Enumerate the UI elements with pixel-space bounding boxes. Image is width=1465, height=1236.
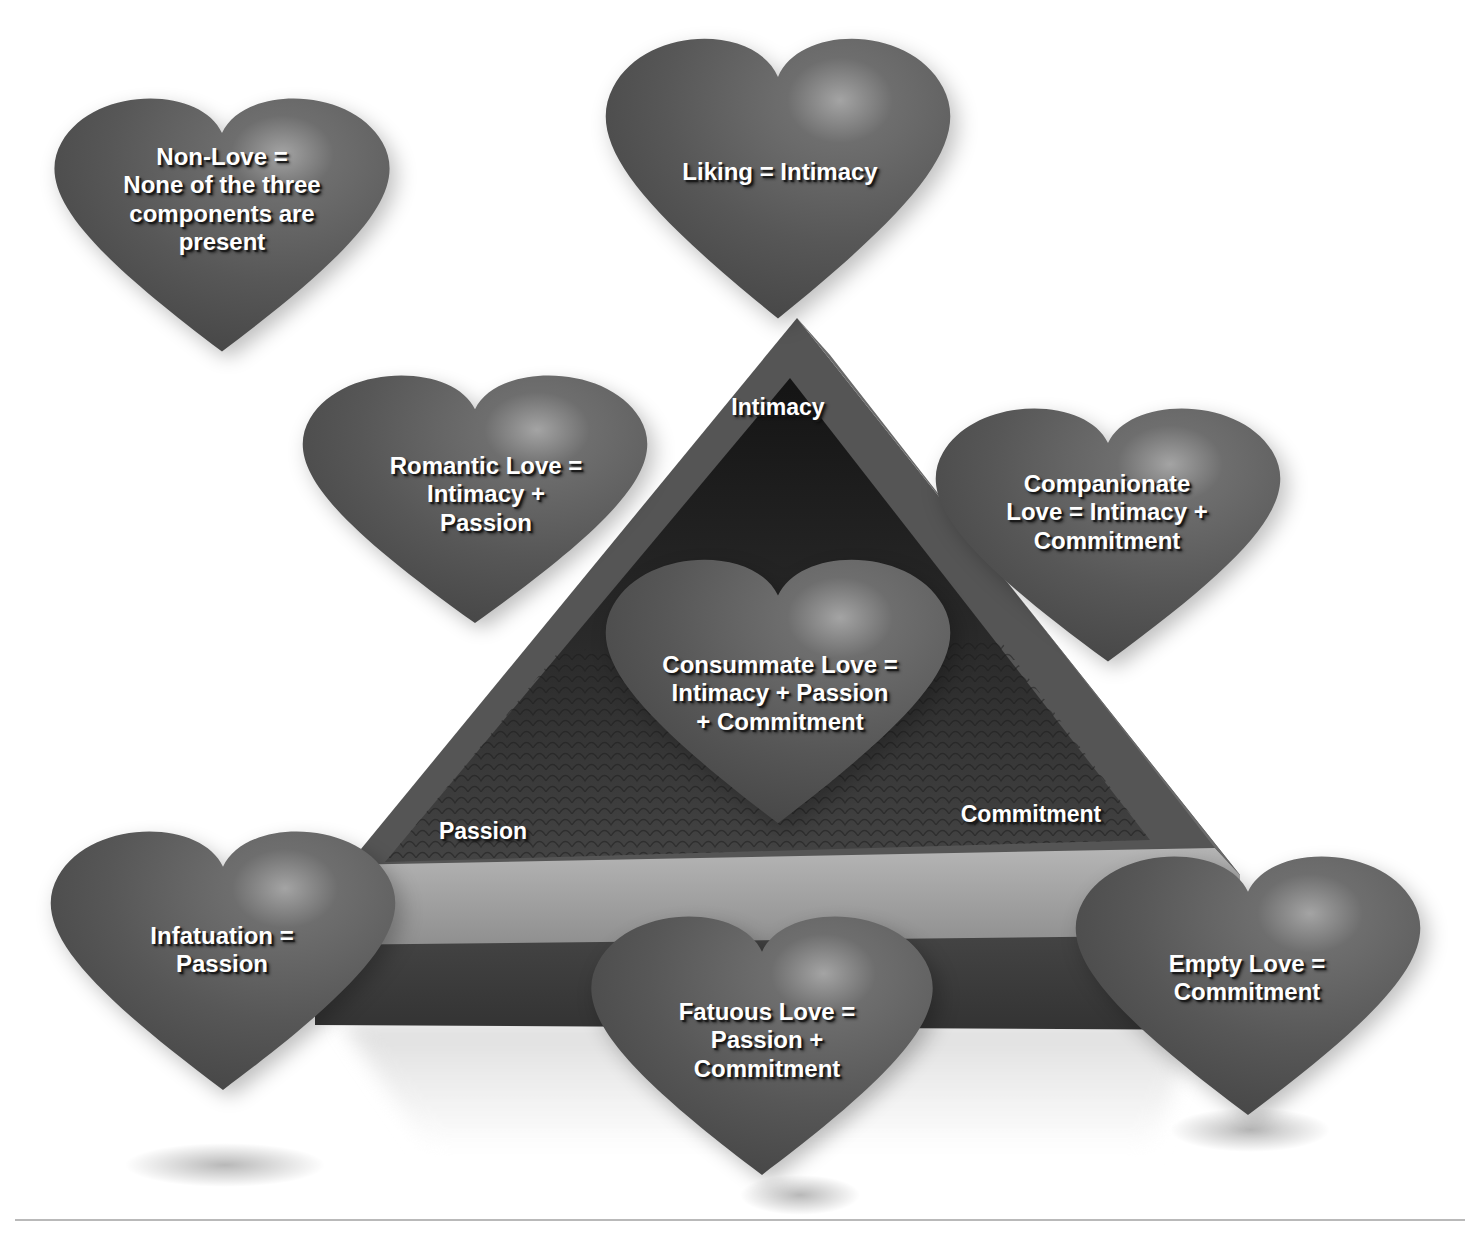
- heart-label-romantic-love: Romantic Love = Intimacy + Passion: [390, 452, 583, 537]
- heart-label-companionate-love: Companionate Love = Intimacy + Commitmen…: [1006, 470, 1207, 555]
- heart-shadow: [125, 1143, 325, 1187]
- heart-shadow: [740, 1175, 860, 1215]
- love-triangle-diagram: Intimacy Passion Commitment Non-Love = N…: [0, 0, 1465, 1236]
- heart-label-non-love: Non-Love = None of the three components …: [123, 143, 320, 256]
- heart-label-liking: Liking = Intimacy: [682, 158, 877, 186]
- vertex-label-commitment: Commitment: [961, 801, 1102, 828]
- heart-label-fatuous-love: Fatuous Love = Passion + Commitment: [679, 998, 856, 1083]
- heart-label-consummate-love: Consummate Love = Intimacy + Passion + C…: [662, 651, 897, 736]
- vertex-label-intimacy: Intimacy: [731, 394, 824, 421]
- heart-label-infatuation: Infatuation = Passion: [150, 922, 293, 979]
- vertex-label-passion: Passion: [439, 818, 527, 845]
- heart-label-empty-love: Empty Love = Commitment: [1169, 950, 1326, 1007]
- bottom-divider: [15, 1219, 1465, 1221]
